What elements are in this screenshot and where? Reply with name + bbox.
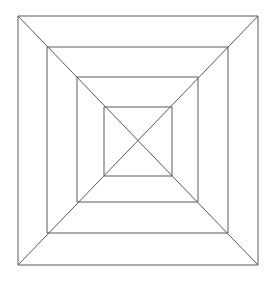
figure-canvas (0, 0, 276, 281)
nested-squares-diagram (0, 0, 276, 281)
